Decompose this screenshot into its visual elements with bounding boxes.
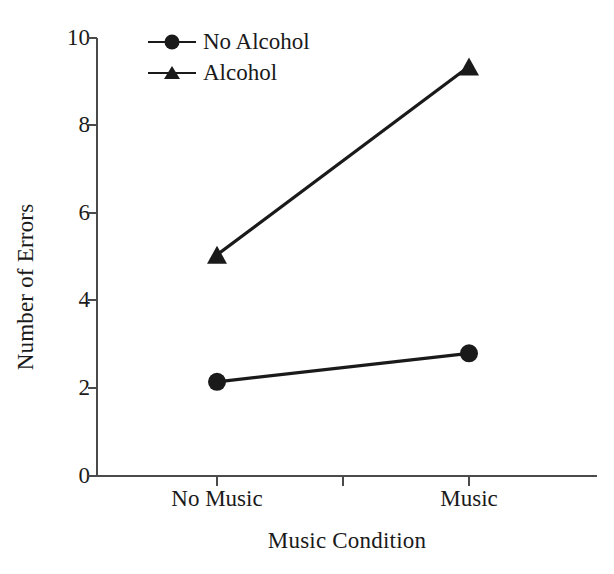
x-tick-marks — [217, 476, 469, 486]
circle-marker-icon — [148, 33, 196, 51]
legend-item-alcohol: Alcohol — [148, 57, 310, 88]
series-alcohol-line — [217, 66, 469, 254]
series-no-alcohol-line — [217, 353, 469, 381]
legend-swatch-alcohol — [148, 64, 196, 82]
series-alcohol — [207, 57, 479, 263]
legend-label-no-alcohol: No Alcohol — [203, 30, 310, 53]
triangle-marker-icon — [148, 64, 196, 82]
circle-marker-icon — [208, 373, 226, 391]
line-chart-figure: Number of Errors 10 8 6 4 2 0 No Music M… — [0, 0, 614, 574]
series-no-alcohol — [208, 344, 478, 390]
chart-legend: No Alcohol Alcohol — [148, 26, 310, 88]
legend-swatch-no-alcohol — [148, 33, 196, 51]
triangle-marker-icon — [459, 57, 479, 75]
legend-label-alcohol: Alcohol — [203, 61, 277, 84]
legend-item-no-alcohol: No Alcohol — [148, 26, 310, 57]
y-tick-marks — [88, 38, 97, 476]
circle-marker-icon — [460, 344, 478, 362]
